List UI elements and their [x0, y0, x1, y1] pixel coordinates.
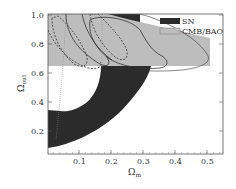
- y-tick-label: 1.0: [31, 11, 44, 20]
- y-tick-label: 0.8: [31, 40, 44, 49]
- x-tick-label: 0.4: [169, 157, 182, 166]
- chart: 0.10.20.30.40.50.20.40.60.81.0 SN CMB/BA…: [0, 0, 236, 189]
- x-tick-label: 0.2: [105, 157, 118, 166]
- legend-swatch-cmb: [160, 28, 180, 34]
- x-tick-label: 0.1: [73, 157, 86, 166]
- legend-swatch-sn: [160, 18, 180, 24]
- chart-svg: 0.10.20.30.40.50.20.40.60.81.0 SN CMB/BA…: [0, 0, 236, 189]
- y-tick-label: 0.4: [31, 98, 44, 107]
- legend: SN CMB/BAO: [160, 17, 224, 36]
- legend-label-cmb: CMB/BAO: [182, 27, 224, 36]
- x-axis-label: Ωm: [128, 167, 141, 178]
- y-axis-label: Ωout: [16, 74, 27, 92]
- y-tick-label: 0.2: [31, 127, 44, 136]
- y-tick-label: 0.6: [31, 69, 44, 78]
- sn-region: [48, 66, 151, 148]
- legend-label-sn: SN: [182, 17, 194, 26]
- x-tick-label: 0.3: [137, 157, 150, 166]
- x-tick-label: 0.5: [201, 157, 214, 166]
